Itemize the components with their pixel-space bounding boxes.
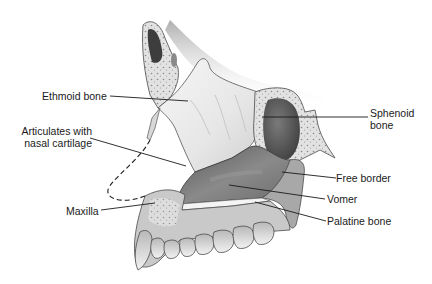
label-sphenoid-bone: Sphenoid bone	[370, 107, 414, 131]
nasal-septum-diagram: Ethmoid bone Articulates with nasal cart…	[0, 0, 432, 284]
label-maxilla: Maxilla	[66, 205, 99, 217]
label-ethmoid-text: Ethmoid bone	[42, 90, 107, 102]
label-maxilla-text: Maxilla	[66, 205, 99, 217]
label-ethmoid-bone: Ethmoid bone	[42, 90, 107, 102]
label-sphenoid-line1: Sphenoid	[370, 107, 414, 119]
label-vomer-text: Vomer	[327, 193, 357, 205]
label-articulates-nasal-cartilage: Articulates with nasal cartilage	[18, 125, 92, 149]
label-sphenoid-line2: bone	[370, 119, 414, 131]
label-articulates-line1: Articulates with	[18, 125, 92, 137]
label-free-border-text: Free border	[336, 172, 391, 184]
label-articulates-line2: nasal cartilage	[18, 137, 92, 149]
label-palatine-text: Palatine bone	[327, 215, 391, 227]
label-vomer: Vomer	[327, 193, 357, 205]
label-palatine-bone: Palatine bone	[327, 215, 391, 227]
label-free-border: Free border	[336, 172, 391, 184]
leader-articulates	[90, 138, 186, 166]
